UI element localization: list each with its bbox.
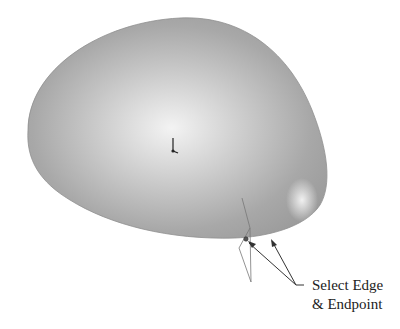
arrowheads [248, 239, 277, 248]
dome-surface[interactable] [28, 18, 327, 238]
rim-highlight [286, 178, 318, 222]
callout-line2: & Endpoint [312, 295, 383, 314]
callout-leaders [249, 241, 304, 285]
callout-label: Select Edge & Endpoint [312, 276, 383, 314]
endpoint-marker-icon[interactable] [244, 237, 248, 241]
callout-line1: Select Edge [312, 276, 383, 295]
